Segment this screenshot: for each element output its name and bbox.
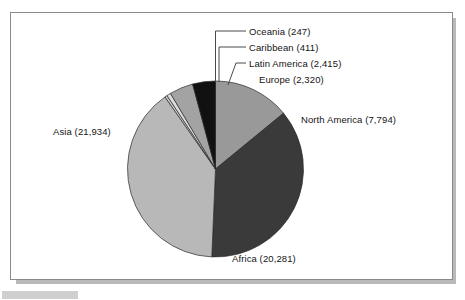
pie-label-north-america: North America (7,794) (301, 114, 396, 125)
figure-canvas: Oceania (247) Caribbean (411) Latin Amer… (0, 0, 465, 300)
figure-frame (10, 12, 453, 280)
pie-label-africa: Africa (20,281) (232, 253, 296, 264)
pie-label-oceania: Oceania (247) (249, 26, 311, 37)
pie-label-latin-america: Latin America (2,415) (249, 58, 341, 69)
pie-label-asia: Asia (21,934) (53, 126, 111, 137)
pie-label-europe: Europe (2,320) (259, 74, 324, 85)
bottom-left-bar (2, 291, 78, 299)
pie-label-caribbean: Caribbean (411) (249, 42, 318, 53)
